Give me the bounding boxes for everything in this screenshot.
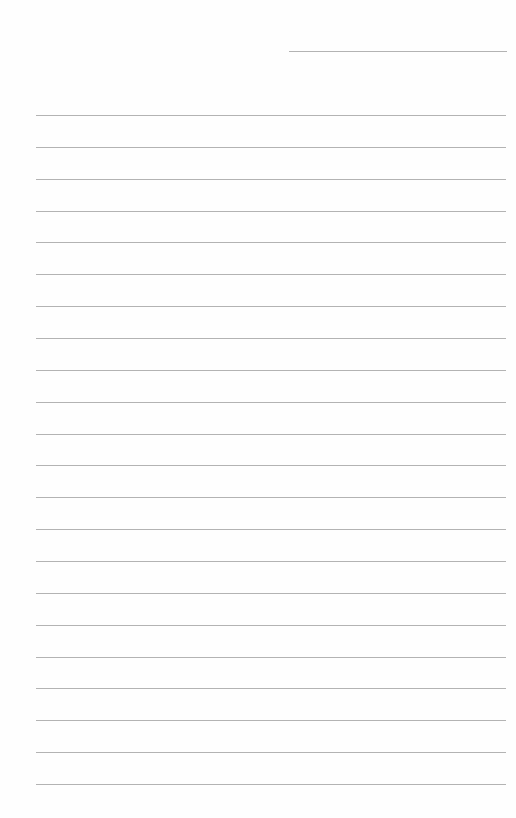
- ruled-line: [36, 370, 506, 371]
- ruled-line: [36, 338, 506, 339]
- ruled-line: [36, 720, 506, 721]
- ruled-line: [36, 434, 506, 435]
- ruled-line: [36, 306, 506, 307]
- ruled-line: [36, 242, 506, 243]
- ruled-line: [36, 465, 506, 466]
- ruled-line: [36, 402, 506, 403]
- header-name-line: [289, 51, 507, 52]
- ruled-line: [36, 497, 506, 498]
- lined-paper-page: [0, 0, 516, 818]
- ruled-line: [36, 784, 506, 785]
- ruled-line: [36, 115, 506, 116]
- ruled-line: [36, 179, 506, 180]
- ruled-line: [36, 657, 506, 658]
- ruled-line: [36, 147, 506, 148]
- ruled-line: [36, 211, 506, 212]
- ruled-line: [36, 593, 506, 594]
- ruled-line: [36, 625, 506, 626]
- ruled-line: [36, 274, 506, 275]
- ruled-line: [36, 752, 506, 753]
- ruled-line: [36, 561, 506, 562]
- ruled-line: [36, 529, 506, 530]
- ruled-line: [36, 688, 506, 689]
